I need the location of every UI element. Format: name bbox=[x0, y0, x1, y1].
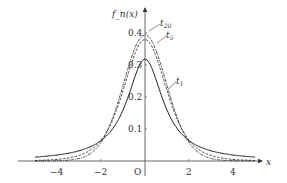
label-t5: t5 bbox=[166, 30, 174, 41]
label-t20: t20 bbox=[160, 18, 171, 29]
axis-ticks: −4−2240.10.20.30.4 bbox=[50, 28, 236, 177]
x-tick-label: −2 bbox=[94, 167, 107, 177]
origin-label: O bbox=[134, 167, 141, 177]
t-distribution-chart: −4−2240.10.20.30.4 t20 t5 t1 f_n(x) x O bbox=[0, 0, 287, 183]
x-tick-label: 2 bbox=[186, 167, 192, 177]
y-tick-label: 0.4 bbox=[128, 28, 143, 38]
leader-t5 bbox=[157, 36, 166, 43]
x-tick-label: −4 bbox=[50, 167, 64, 177]
y-tick-label: 0.1 bbox=[128, 124, 142, 134]
y-tick-label: 0.2 bbox=[128, 92, 142, 102]
label-t1: t1 bbox=[176, 76, 183, 87]
y-axis-label: f_n(x) bbox=[111, 9, 138, 20]
leader-t1 bbox=[167, 82, 176, 90]
x-tick-label: 4 bbox=[230, 167, 236, 177]
leader-t20 bbox=[149, 24, 160, 31]
x-axis-label: x bbox=[266, 157, 271, 167]
